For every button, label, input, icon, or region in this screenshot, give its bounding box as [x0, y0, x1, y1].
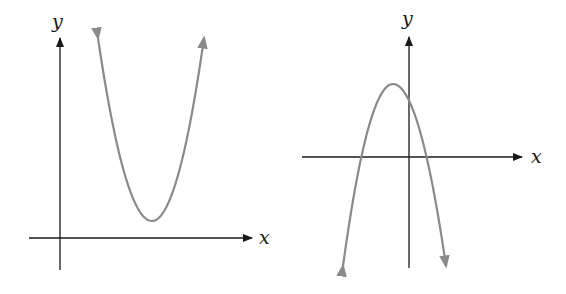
- x-axis-label: x: [259, 226, 270, 248]
- parabola-diagrams: x y x y: [0, 0, 566, 294]
- parabola-curve-down: [343, 84, 446, 266]
- graph-right: x y: [302, 7, 542, 268]
- graph-left: x y: [29, 10, 270, 270]
- y-axis-label: y: [401, 7, 413, 29]
- x-axis-label: x: [531, 145, 542, 167]
- parabola-curve-up: [98, 38, 204, 221]
- y-axis-label: y: [51, 10, 63, 32]
